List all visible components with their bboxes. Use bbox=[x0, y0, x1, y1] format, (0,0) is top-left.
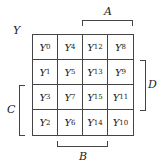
cell-base: Y bbox=[64, 42, 71, 53]
cell-subscript: 11 bbox=[119, 93, 128, 101]
cell-base: Y bbox=[115, 42, 122, 53]
cell-subscript: 2 bbox=[46, 119, 50, 127]
cell-base: Y bbox=[115, 67, 122, 78]
cell-subscript: 8 bbox=[122, 43, 126, 51]
cell-base: Y bbox=[64, 117, 71, 128]
cell-base: Y bbox=[87, 92, 94, 103]
cell-subscript: 12 bbox=[94, 43, 103, 51]
cell-base: Y bbox=[113, 92, 120, 103]
cell-y2: Y2 bbox=[33, 110, 58, 135]
cell-base: Y bbox=[87, 117, 94, 128]
cell-y7: Y7 bbox=[58, 85, 83, 110]
cell-base: Y bbox=[64, 92, 71, 103]
cell-base: Y bbox=[39, 92, 46, 103]
cell-subscript: 15 bbox=[94, 93, 103, 101]
output-label: Y bbox=[13, 24, 20, 37]
cell-y8: Y8 bbox=[108, 35, 133, 60]
bracket-d-label: D bbox=[148, 78, 157, 91]
karnaugh-grid: Y0 Y4 Y12 Y8 Y1 Y5 Y13 Y9 Y3 Y7 Y15 Y11 … bbox=[32, 34, 134, 136]
cell-y0: Y0 bbox=[33, 35, 58, 60]
cell-subscript: 6 bbox=[71, 119, 75, 127]
cell-subscript: 9 bbox=[122, 68, 126, 76]
cell-y5: Y5 bbox=[58, 60, 83, 85]
cell-base: Y bbox=[87, 67, 94, 78]
bracket-a bbox=[82, 20, 133, 26]
cell-subscript: 14 bbox=[94, 119, 103, 127]
bracket-d bbox=[140, 60, 146, 111]
cell-y10: Y10 bbox=[108, 110, 133, 135]
cell-subscript: 1 bbox=[46, 68, 50, 76]
cell-base: Y bbox=[113, 117, 120, 128]
bracket-a-label: A bbox=[104, 5, 112, 18]
cell-y3: Y3 bbox=[33, 85, 58, 110]
cell-base: Y bbox=[64, 67, 71, 78]
cell-base: Y bbox=[39, 42, 46, 53]
cell-y6: Y6 bbox=[58, 110, 83, 135]
cell-subscript: 7 bbox=[71, 93, 75, 101]
cell-subscript: 5 bbox=[71, 68, 75, 76]
cell-y14: Y14 bbox=[83, 110, 108, 135]
cell-y1: Y1 bbox=[33, 60, 58, 85]
cell-subscript: 10 bbox=[119, 119, 128, 127]
cell-base: Y bbox=[39, 117, 46, 128]
bracket-c bbox=[19, 85, 25, 136]
cell-y15: Y15 bbox=[83, 85, 108, 110]
cell-y12: Y12 bbox=[83, 35, 108, 60]
cell-base: Y bbox=[39, 67, 46, 78]
cell-subscript: 4 bbox=[71, 43, 75, 51]
bracket-c-label: C bbox=[7, 103, 15, 116]
cell-subscript: 3 bbox=[46, 93, 50, 101]
cell-y13: Y13 bbox=[83, 60, 108, 85]
cell-subscript: 0 bbox=[46, 43, 50, 51]
bracket-b bbox=[57, 141, 108, 147]
bracket-b-label: B bbox=[79, 150, 87, 163]
cell-base: Y bbox=[87, 42, 94, 53]
cell-subscript: 13 bbox=[94, 68, 103, 76]
cell-y11: Y11 bbox=[108, 85, 133, 110]
cell-y9: Y9 bbox=[108, 60, 133, 85]
cell-y4: Y4 bbox=[58, 35, 83, 60]
